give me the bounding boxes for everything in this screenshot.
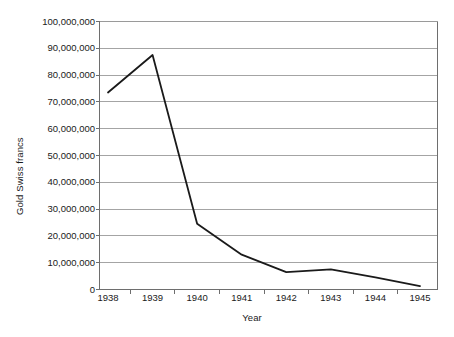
chart-container: Gold Swiss francs 010,000,00020,000,0003… — [0, 0, 454, 337]
x-tick-label: 1939 — [133, 293, 173, 303]
data-series-line — [108, 55, 420, 286]
x-tick-label: 1945 — [400, 293, 440, 303]
x-tick-label: 1942 — [266, 293, 306, 303]
x-tick-label: 1944 — [355, 293, 395, 303]
x-tick-label: 1938 — [88, 293, 128, 303]
x-axis-title: Year — [0, 312, 454, 323]
x-axis-tick-labels: 19381939194019411942194319441945 — [0, 293, 454, 307]
axis-ticks — [96, 22, 398, 294]
x-tick-label: 1943 — [311, 293, 351, 303]
x-tick-label: 1940 — [177, 293, 217, 303]
series-gold-swiss-francs — [108, 55, 420, 286]
plot-area — [0, 0, 454, 337]
x-tick-label: 1941 — [222, 293, 262, 303]
